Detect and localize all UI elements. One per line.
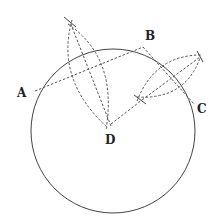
label-a: A bbox=[16, 86, 27, 100]
tick-bottom-right bbox=[134, 95, 146, 104]
label-c: C bbox=[197, 102, 207, 116]
line-d-right-ext bbox=[142, 57, 200, 100]
circle bbox=[31, 49, 195, 213]
geometry-diagram: A B C D bbox=[0, 0, 219, 224]
line-d-right bbox=[111, 100, 142, 124]
left-lens-arc-2 bbox=[68, 24, 108, 130]
tick-top-right bbox=[197, 51, 203, 62]
left-lens-arc-1 bbox=[68, 20, 108, 128]
label-d: D bbox=[105, 133, 115, 147]
right-lens-arc-1 bbox=[137, 55, 201, 101]
chord-bc bbox=[143, 47, 194, 104]
label-b: B bbox=[145, 29, 155, 43]
